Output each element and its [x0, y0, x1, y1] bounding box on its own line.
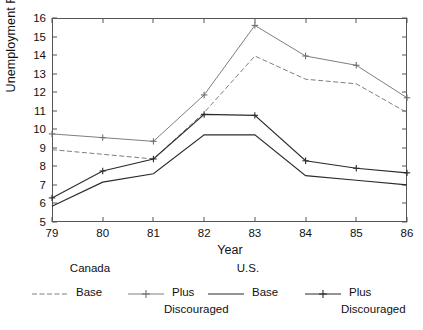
- data-point-marker: [404, 95, 410, 101]
- data-point-marker: [302, 53, 308, 59]
- series-line: [52, 56, 407, 159]
- y-tick-label: 8: [40, 160, 46, 172]
- series-line: [52, 114, 407, 197]
- y-tick-label: 7: [40, 179, 46, 191]
- y-tick-label: 11: [34, 105, 46, 117]
- y-tick-label: 16: [33, 12, 46, 24]
- x-tick-label: 86: [401, 227, 414, 239]
- legend-label: Plus: [349, 286, 371, 298]
- x-tick-label: 83: [248, 227, 261, 239]
- y-tick-label: 10: [33, 123, 46, 135]
- data-point-marker: [252, 22, 258, 28]
- y-axis-title: Unemployment Rate (%): [4, 0, 26, 138]
- data-point-marker: [49, 195, 55, 201]
- data-point-marker: [353, 165, 359, 171]
- legend-sublabel: Discouraged: [164, 303, 229, 315]
- legend-sublabel: Discouraged: [341, 303, 406, 315]
- y-tick-label: 6: [40, 197, 46, 209]
- legend-swatch: [32, 288, 68, 300]
- y-tick-label: 15: [33, 31, 46, 43]
- x-axis-title: Year: [50, 243, 410, 257]
- x-tick-label: 84: [299, 227, 312, 239]
- x-tick-label: 81: [147, 227, 160, 239]
- x-tick-label: 82: [198, 227, 211, 239]
- legend-label: Base: [76, 286, 102, 298]
- chart-legend: CanadaU.S.BasePlusDiscouragedBasePlusDis…: [0, 262, 423, 330]
- series-lines: [52, 18, 407, 222]
- plot-area: 5678910111213141516 7980818283848586: [52, 18, 407, 222]
- data-point-marker: [404, 170, 410, 176]
- legend-swatch: [208, 288, 244, 300]
- y-tick-label: 9: [40, 142, 46, 154]
- legend-group-title: U.S.: [208, 262, 288, 274]
- y-tick-label: 12: [33, 86, 46, 98]
- x-tick-label: 80: [96, 227, 109, 239]
- legend-label: Plus: [172, 286, 194, 298]
- legend-label: Base: [252, 286, 278, 298]
- x-tick-label: 79: [46, 227, 59, 239]
- data-point-marker: [100, 168, 106, 174]
- legend-group-title: Canada: [50, 262, 130, 274]
- y-tick-label: 13: [33, 68, 46, 80]
- series-line: [52, 25, 407, 141]
- data-point-marker: [100, 134, 106, 140]
- data-point-marker: [353, 62, 359, 68]
- x-tick-label: 85: [350, 227, 363, 239]
- y-tick-label: 14: [33, 49, 46, 61]
- legend-swatch: [305, 288, 341, 300]
- chart-figure: Unemployment Rate (%) 567891011121314151…: [0, 0, 423, 330]
- legend-swatch: [128, 288, 164, 300]
- data-point-marker: [49, 131, 55, 137]
